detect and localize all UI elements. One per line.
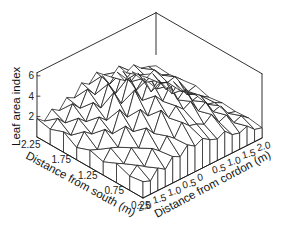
- surface-plot: 246 2.251.751.250.750.25 2.01.51.00.500.…: [0, 0, 290, 232]
- x-tick-label: 2.25: [21, 139, 41, 150]
- z-tick-label: 4: [28, 91, 34, 102]
- z-axis-label: Leaf area index: [10, 66, 22, 146]
- z-tick-label: 2: [28, 111, 34, 122]
- z-tick-label: 6: [28, 70, 34, 81]
- z-axis-ticks: 246: [28, 70, 40, 122]
- y-tick-label: 2.0: [136, 199, 153, 213]
